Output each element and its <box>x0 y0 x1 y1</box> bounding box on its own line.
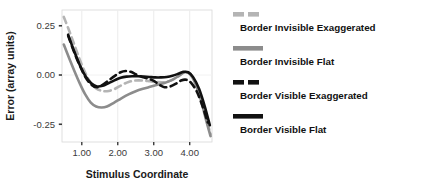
legend-label-0: Border Invisible Exaggerated <box>240 22 376 33</box>
chart-figure: 1.002.003.004.00 0.250.00-0.25 Stimulus … <box>0 0 424 193</box>
legend-key-3 <box>233 114 263 119</box>
x-axis-title: Stimulus Coordinate <box>86 168 189 180</box>
legend-key-1 <box>233 46 263 51</box>
x-tick-label-3.00: 3.00 <box>144 147 163 158</box>
legend-label-3: Border Visible Flat <box>240 124 327 135</box>
y-tick-label--0.25: -0.25 <box>33 119 55 130</box>
legend-label-2: Border Visible Exaggerated <box>240 90 368 101</box>
y-axis-title: Error (array units) <box>4 31 16 120</box>
y-tick-label-0.25: 0.25 <box>37 20 56 31</box>
legend-key-2-dash-0 <box>233 80 244 85</box>
x-tick-label-2.00: 2.00 <box>109 147 128 158</box>
legend-key-0-dash-1 <box>248 12 259 17</box>
legend-key-0-dash-0 <box>233 12 244 17</box>
x-tick-label-1.00: 1.00 <box>73 147 92 158</box>
error-vs-stimulus-coordinate-chart: 1.002.003.004.00 0.250.00-0.25 Stimulus … <box>0 0 424 193</box>
legend-key-2-dash-1 <box>248 80 259 85</box>
legend-label-1: Border Invisible Flat <box>240 56 335 67</box>
chart-legend: Border Invisible ExaggeratedBorder Invis… <box>233 12 376 135</box>
y-axis-ticks: 0.250.00-0.25 <box>33 20 62 130</box>
x-axis-ticks: 1.002.003.004.00 <box>73 142 199 158</box>
x-tick-label-4.00: 4.00 <box>180 147 199 158</box>
y-tick-label-0.00: 0.00 <box>37 69 56 80</box>
